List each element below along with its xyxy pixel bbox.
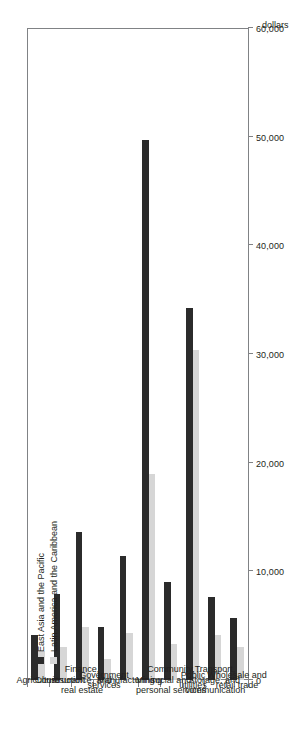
value-tick-label: 10,000 bbox=[256, 567, 284, 577]
value-tick bbox=[248, 353, 253, 354]
axis-title-dollars: dollars bbox=[262, 20, 289, 30]
value-tick-label: 50,000 bbox=[256, 133, 284, 143]
category-label: Wholesale and retail trade bbox=[192, 660, 282, 700]
value-tick bbox=[248, 27, 253, 28]
value-tick bbox=[248, 136, 253, 137]
legend-swatch-icon bbox=[37, 657, 44, 664]
value-tick bbox=[248, 462, 253, 463]
chart-area: 010,00020,00030,00040,00050,00060,000 Ag… bbox=[0, 0, 306, 748]
bar-1 bbox=[193, 350, 200, 680]
legend-label: Latin America and the Caribbean bbox=[49, 521, 59, 652]
chart-legend: East Asia and the Pacific Latin America … bbox=[36, 521, 62, 664]
bar-1 bbox=[149, 474, 156, 680]
rotated-chart-stage: 010,00020,00030,00040,00050,00060,000 Ag… bbox=[0, 0, 306, 748]
bar-group bbox=[115, 28, 137, 680]
bar-group bbox=[71, 28, 93, 680]
value-tick bbox=[248, 244, 253, 245]
bar-group bbox=[93, 28, 115, 680]
bar-group bbox=[160, 28, 182, 680]
legend-swatch-icon bbox=[50, 657, 57, 664]
bar-group bbox=[226, 28, 248, 680]
bar-0 bbox=[142, 140, 149, 680]
value-tick-label: 20,000 bbox=[256, 459, 284, 469]
bar-group bbox=[204, 28, 226, 680]
bar-group bbox=[182, 28, 204, 680]
legend-item: Latin America and the Caribbean bbox=[49, 521, 59, 664]
bar-0 bbox=[186, 308, 193, 680]
value-tick-label: 30,000 bbox=[256, 350, 284, 360]
bar-0 bbox=[76, 532, 83, 680]
bar-group bbox=[138, 28, 160, 680]
value-tick-label: 40,000 bbox=[256, 241, 284, 251]
value-tick bbox=[248, 570, 253, 571]
legend-label: East Asia and the Pacific bbox=[36, 553, 46, 652]
legend-item: East Asia and the Pacific bbox=[36, 521, 46, 664]
